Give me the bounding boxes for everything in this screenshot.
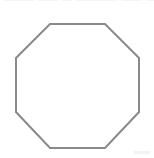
octagon-outline — [16, 24, 139, 148]
figure-area — [0, 0, 154, 158]
screenshot-canvas: ——— —— — ———— —— — ———— —— — [0, 0, 154, 158]
octagon-svg — [0, 0, 154, 158]
